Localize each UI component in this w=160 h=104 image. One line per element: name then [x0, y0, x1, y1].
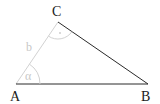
triangle-diagram: C A B b α	[0, 0, 160, 104]
side-label-b: b	[26, 40, 32, 54]
side-b-ac	[16, 22, 58, 84]
angle-label-alpha: α	[25, 69, 32, 83]
angle-dot-gamma	[59, 32, 61, 34]
vertex-label-a: A	[10, 89, 21, 104]
vertex-label-c: C	[52, 4, 61, 19]
vertex-label-b: B	[141, 89, 150, 104]
side-a-bc	[58, 22, 148, 84]
